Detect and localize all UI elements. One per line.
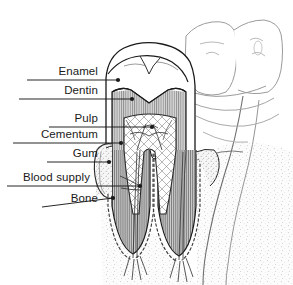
leader-dot-bone xyxy=(111,196,115,200)
label-cementum: Cementum xyxy=(0,128,98,141)
label-gum: Gum xyxy=(0,147,98,160)
leader-dot-gum xyxy=(107,160,111,164)
label-dentin: Dentin xyxy=(0,84,98,97)
leader-dot-pulp xyxy=(150,125,154,129)
label-bone: Bone xyxy=(0,192,98,205)
leader-dot-blood-supply xyxy=(138,184,142,188)
leader-dot-cementum xyxy=(119,141,123,145)
label-pulp: Pulp xyxy=(0,112,98,125)
adjacent-teeth xyxy=(185,20,283,142)
tooth-cross-section-illustration xyxy=(0,0,293,285)
label-blood-supply: Blood supply xyxy=(0,171,90,184)
tooth-anatomy-figure: EnamelDentinPulpCementumGumBlood supplyB… xyxy=(0,0,293,285)
label-enamel: Enamel xyxy=(0,65,98,78)
leader-dot-enamel xyxy=(116,78,120,82)
leader-dot-dentin xyxy=(130,97,134,101)
